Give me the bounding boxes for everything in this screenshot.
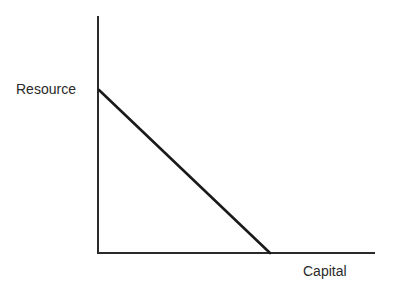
x-axis-label: Capital (303, 264, 347, 278)
diagram-canvas: Resource Capital (0, 0, 403, 287)
tradeoff-line (99, 90, 270, 253)
y-axis-label: Resource (16, 82, 76, 96)
diagram-svg (0, 0, 403, 287)
